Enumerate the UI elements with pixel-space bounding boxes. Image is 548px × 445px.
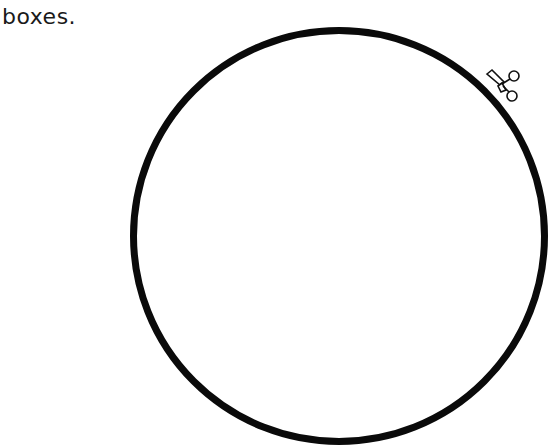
scissors-icon: [484, 66, 524, 106]
instruction-text: boxes.: [2, 4, 76, 29]
